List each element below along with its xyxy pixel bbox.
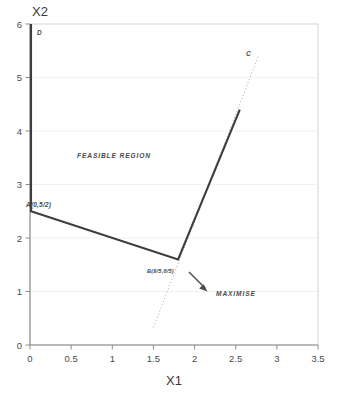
linear-programming-chart: 0 1 2 3 4 5 6 0 0.5 1 1.5 2 2.5 3 3.5 X2…: [0, 0, 342, 399]
feasible-region-label: FEASIBLE REGION: [77, 152, 151, 159]
y-tick-label-5: 5: [17, 72, 22, 83]
x-axis-title: X1: [166, 373, 182, 388]
x-tick-label-2: 1: [110, 353, 115, 364]
y-tick-label-4: 4: [17, 126, 22, 137]
y-tick-label-6: 6: [17, 19, 22, 30]
vertex-label-d: D: [37, 29, 42, 36]
x-tick-label-0: 0: [27, 353, 32, 364]
vertex-label-a: A(0,5/2): [25, 201, 51, 209]
chart-svg: 0 1 2 3 4 5 6 0 0.5 1 1.5 2 2.5 3 3.5 X2…: [0, 0, 342, 399]
vertex-label-c: C: [246, 50, 251, 57]
y-tick-label-2: 2: [17, 233, 22, 244]
x-tick-label-1: 0.5: [64, 353, 77, 364]
vertex-label-b: B(9/5,8/5): [147, 268, 174, 274]
y-tick-label-0: 0: [17, 340, 22, 351]
x-tick-label-7: 3.5: [311, 353, 324, 364]
maximise-label: MAXIMISE: [216, 290, 256, 297]
x-tick-label-5: 2.5: [229, 353, 242, 364]
x-tick-label-4: 2: [192, 353, 197, 364]
y-tick-label-3: 3: [17, 179, 22, 190]
x-tick-label-3: 1.5: [147, 353, 160, 364]
canvas-background: [0, 0, 342, 399]
y-axis-title: X2: [32, 4, 48, 19]
y-tick-label-1: 1: [17, 286, 22, 297]
x-tick-label-6: 3: [274, 353, 279, 364]
